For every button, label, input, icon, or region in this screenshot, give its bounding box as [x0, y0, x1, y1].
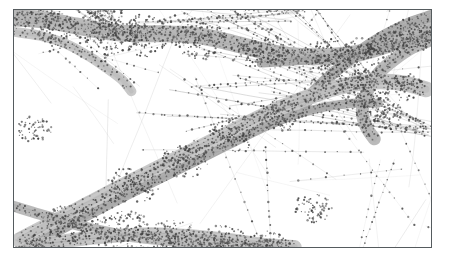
plot-frame [13, 9, 432, 248]
figure-root [0, 0, 449, 267]
trajectory-scatter-plot [14, 10, 431, 247]
